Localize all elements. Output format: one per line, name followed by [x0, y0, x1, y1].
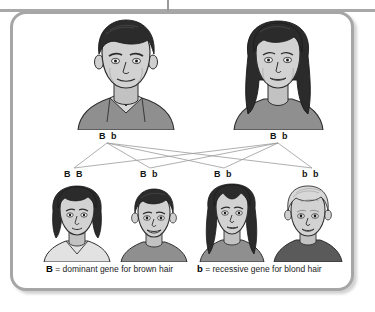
figure-child-1 — [36, 184, 118, 262]
figure-child-4 — [268, 184, 348, 262]
legend-text-dominant: = dominant gene for brown hair — [53, 264, 173, 274]
genotype-child-4: b b — [302, 169, 320, 179]
legend-text-recessive: = recessive gene for blond hair — [203, 264, 322, 274]
legend: B = dominant gene for brown hair b = rec… — [20, 263, 345, 279]
genotype-child-2: B b — [140, 169, 159, 179]
genotype-father: B b — [99, 131, 118, 141]
legend-item-dominant: B = dominant gene for brown hair — [46, 263, 173, 274]
diagram-canvas: B b B b B B B b B b b b — [0, 0, 375, 312]
figure-father — [66, 18, 186, 130]
genotype-child-3: B b — [214, 169, 233, 179]
genotype-child-1: B B — [64, 169, 84, 179]
figure-mother — [218, 18, 338, 130]
figure-child-2 — [115, 188, 193, 262]
genotype-mother: B b — [270, 131, 289, 141]
legend-item-recessive: b = recessive gene for blond hair — [197, 263, 322, 274]
figure-child-3 — [190, 182, 272, 262]
legend-symbol-B: B — [46, 263, 53, 274]
